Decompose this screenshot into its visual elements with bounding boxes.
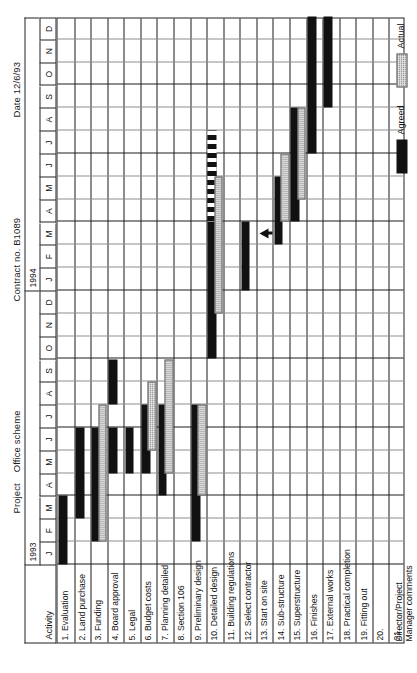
gantt-plot-area — [56, 17, 404, 643]
legend-swatch-agreed — [396, 139, 407, 173]
bar-actual-row-7 — [164, 359, 173, 473]
bar-actual-row-14 — [280, 153, 289, 222]
rotated-page: Project Office scheme Contract no. B1089… — [0, 0, 417, 673]
activity-label-row-6: 6. Budget costs — [142, 581, 152, 640]
month-tick-14: F — [39, 245, 56, 268]
bar-actual-row-9 — [197, 404, 206, 495]
month-tick-17: M — [39, 177, 56, 200]
month-tick-24: D — [39, 17, 56, 40]
activity-label-row-19: 19. Fitting out — [358, 588, 368, 640]
legend-swatch-actual — [396, 53, 407, 87]
month-gridline — [57, 175, 403, 176]
bar-agreed-row-12 — [241, 222, 250, 291]
gantt-grid: Activity 19931994 JFMAMJJASONDJFMAMJJASO… — [24, 17, 404, 643]
activity-label-row-8: 8. Section 106 — [175, 585, 185, 640]
month-gridline — [57, 243, 403, 244]
month-tick-18: J — [39, 154, 56, 177]
bar-agreed-row-17 — [323, 16, 332, 107]
director-comments-line1: Director/Project — [393, 565, 403, 641]
activity-label-row-16: 16. Finishes — [308, 594, 318, 640]
activity-label-row-10: 10. Detailed design — [208, 566, 218, 640]
month-gridline — [57, 335, 403, 336]
bar-agreed-row-5 — [125, 427, 134, 473]
row-gridline — [272, 18, 273, 642]
month-tick-3: M — [39, 497, 56, 520]
row-gridline — [355, 18, 356, 642]
project-caption: Project Office scheme — [10, 410, 21, 513]
month-tick-16: A — [39, 200, 56, 223]
bar-agreed-row-16 — [307, 16, 316, 153]
month-gridline — [57, 61, 403, 62]
month-gridline — [57, 289, 403, 290]
legend-label-actual: Actual — [395, 23, 405, 48]
activity-label-row-9: 9. Preliminary design — [192, 560, 202, 640]
month-gridline — [57, 266, 403, 267]
legend-label-agreed: Agreed — [395, 105, 405, 134]
row-gridline — [140, 18, 141, 642]
activity-header-label: Activity — [43, 610, 53, 639]
bar-agreed-extra-row-4 — [108, 359, 117, 405]
month-gridline — [57, 129, 403, 130]
row-gridline — [339, 18, 340, 642]
bar-agreed-row-4 — [108, 427, 117, 473]
month-gridline — [57, 198, 403, 199]
contract-caption: Contract no. B1089 — [10, 217, 21, 301]
activity-label-row-4: 4. Board approval — [109, 572, 119, 640]
month-tick-21: S — [39, 86, 56, 109]
year-header-1993: 1993 — [24, 291, 39, 565]
month-gridline — [57, 84, 403, 85]
activity-label-row-2: 2. Land purchase — [76, 574, 86, 640]
month-tick-7: J — [39, 405, 56, 428]
month-tick-23: N — [39, 40, 56, 63]
activity-label-row-13: 13. Start on site — [258, 580, 268, 640]
director-comments-label: Director/Project Manager comments — [393, 565, 413, 641]
row-gridline — [322, 18, 323, 642]
month-gridline — [57, 495, 403, 496]
month-gridline — [57, 517, 403, 518]
activity-label-row-14: 14. Sub-structure — [275, 574, 285, 640]
month-tick-1: J — [39, 542, 56, 565]
activity-label-row-17: 17. External works — [324, 569, 334, 640]
month-gridline — [57, 152, 403, 153]
bar-agreed-row-2 — [75, 427, 84, 518]
activity-label-row-1: 1. Evaluation — [59, 590, 69, 640]
row-gridline — [388, 18, 389, 642]
date-caption: Date 12/6/93 — [10, 61, 21, 117]
bar-actual-row-15 — [297, 107, 306, 198]
month-tick-22: O — [39, 63, 56, 86]
month-tick-12: D — [39, 291, 56, 314]
month-gridline — [57, 38, 403, 39]
month-tick-4: A — [39, 474, 56, 497]
chart-canvas: Project Office scheme Contract no. B1089… — [0, 0, 417, 673]
activity-label-row-3: 3. Funding — [92, 599, 102, 640]
row-gridline — [123, 18, 124, 642]
row-gridline — [173, 18, 174, 642]
month-tick-13: J — [39, 268, 56, 291]
bar-actual-row-10 — [214, 176, 223, 313]
activity-column-header: Activity — [24, 565, 56, 643]
month-tick-2: F — [39, 519, 56, 542]
row-gridline — [239, 18, 240, 642]
month-tick-9: S — [39, 360, 56, 383]
milestone-stem-row-13 — [267, 231, 273, 234]
bar-agreed-row-1 — [58, 496, 67, 565]
row-gridline — [223, 18, 224, 642]
bar-actual-row-6 — [147, 381, 156, 450]
activity-label-row-12: 12. Select contractor — [242, 561, 252, 640]
month-gridline — [57, 312, 403, 313]
activity-label-row-20: 20. — [374, 628, 384, 640]
month-gridline — [57, 106, 403, 107]
project-name: Office scheme — [10, 410, 21, 472]
gantt-chart-sheet: Project Office scheme Contract no. B1089… — [0, 0, 417, 673]
row-gridline — [74, 18, 75, 642]
month-tick-6: J — [39, 428, 56, 451]
row-gridline — [256, 18, 257, 642]
month-tick-10: O — [39, 337, 56, 360]
month-gridline — [57, 221, 403, 222]
bar-actual-row-3 — [98, 404, 107, 541]
row-gridline — [107, 18, 108, 642]
month-tick-11: N — [39, 314, 56, 337]
month-tick-20: A — [39, 108, 56, 131]
activity-label-row-11: 11. Building regulations — [225, 551, 235, 640]
legend: Agreed Actual Director/Project Manager c… — [392, 17, 414, 643]
